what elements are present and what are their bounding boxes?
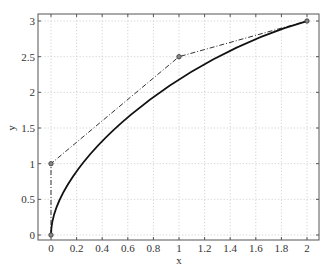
control-point-marker: [305, 19, 309, 23]
chart: 00.20.40.60.811.21.41.61.82 00.511.522.5…: [0, 0, 332, 272]
x-tick-label: 0.8: [147, 242, 161, 254]
y-tick-label: 2.5: [21, 51, 35, 63]
x-tick-label: 2: [304, 242, 310, 254]
x-tick-label: 0.4: [95, 242, 109, 254]
axes-frame: [38, 14, 319, 240]
x-tick-labels: 00.20.40.60.811.21.41.61.82: [48, 242, 310, 254]
y-tick-labels: 00.511.522.53: [21, 15, 35, 241]
x-tick-label: 1.6: [249, 242, 263, 254]
grid-lines: [38, 14, 319, 240]
y-tick-label: 2: [30, 86, 36, 98]
x-tick-label: 1.4: [223, 242, 237, 254]
y-tick-label: 3: [30, 15, 36, 27]
x-tick-label: 1: [176, 242, 182, 254]
x-tick-label: 0.6: [121, 242, 135, 254]
x-tick-label: 1.8: [275, 242, 289, 254]
x-tick-label: 0.2: [70, 242, 84, 254]
y-axis-label: y: [5, 125, 17, 131]
x-tick-label: 1.2: [198, 242, 212, 254]
control-point-marker: [49, 161, 53, 165]
y-tick-label: 1: [30, 158, 36, 170]
y-tick-label: 0: [30, 229, 36, 241]
control-point-marker: [177, 54, 181, 58]
ticks: [38, 14, 319, 240]
x-tick-label: 0: [48, 242, 54, 254]
y-tick-label: 1.5: [21, 122, 35, 134]
y-tick-label: 0.5: [21, 193, 35, 205]
x-axis-label: x: [176, 254, 182, 266]
control-point-marker: [49, 233, 53, 237]
